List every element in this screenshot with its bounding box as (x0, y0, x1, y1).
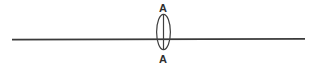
diagram-canvas: A A (0, 0, 316, 66)
section-line (12, 39, 305, 40)
section-diagram-svg: A A (0, 0, 316, 66)
label-a-top: A (159, 2, 167, 14)
label-a-bottom: A (159, 53, 167, 65)
